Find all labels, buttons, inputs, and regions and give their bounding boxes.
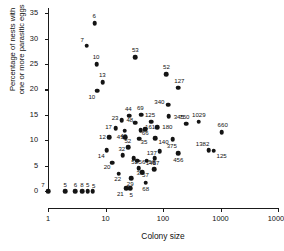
- data-point: [152, 167, 157, 172]
- data-point: [158, 149, 163, 154]
- data-point-label: 20: [104, 163, 111, 169]
- data-point-label: 375: [167, 142, 177, 148]
- data-point: [184, 122, 189, 127]
- data-point-label: 8: [80, 181, 83, 187]
- y-axis-title: Percentage of nests with one or more par…: [8, 0, 27, 134]
- data-point: [155, 125, 160, 130]
- data-point-label: 12: [99, 133, 106, 139]
- x-tick: [48, 208, 49, 212]
- data-point: [73, 189, 78, 194]
- y-axis-title-line-1: Percentage of nests with: [8, 0, 17, 134]
- data-point-label: 21: [117, 191, 124, 197]
- data-point-label: 52: [124, 138, 131, 144]
- data-point-label: 35: [141, 139, 148, 145]
- data-point-label: 17: [105, 124, 112, 130]
- data-point-label: 22: [114, 176, 121, 182]
- data-point-label: 125: [217, 153, 227, 159]
- x-tick-label: 1: [28, 214, 68, 223]
- data-point-label: 750: [179, 114, 189, 120]
- data-point-label: 5: [92, 182, 95, 188]
- data-point-label: 456: [173, 157, 183, 163]
- data-point-label: 14: [98, 153, 105, 159]
- x-tick-label: 10000: [258, 214, 284, 223]
- data-point-label: 32: [118, 146, 125, 152]
- data-point: [107, 135, 112, 140]
- data-point-label: 161: [145, 124, 155, 130]
- data-point: [126, 145, 131, 150]
- data-point-label: 52: [163, 64, 170, 70]
- x-tick: [221, 208, 222, 212]
- scatter-chart: 05101520253035 110100100010000 Percentag…: [0, 0, 284, 251]
- data-point-label: 340: [154, 98, 164, 104]
- data-point: [197, 120, 202, 125]
- data-point-label: 41: [117, 133, 124, 139]
- data-point: [119, 118, 124, 123]
- data-point: [206, 148, 211, 153]
- data-point-label: 10: [93, 54, 100, 60]
- x-tick: [106, 208, 107, 212]
- data-point: [63, 189, 68, 194]
- data-point: [104, 148, 109, 153]
- data-point-label: 44: [125, 106, 132, 112]
- data-point-label: 1029: [192, 112, 206, 118]
- x-tick-label: 100: [143, 214, 183, 223]
- data-point: [128, 186, 133, 191]
- data-point: [85, 189, 90, 194]
- data-point: [90, 189, 95, 194]
- data-point: [121, 153, 126, 158]
- data-point: [166, 102, 171, 107]
- x-axis-title: Colony size: [48, 231, 278, 241]
- data-point: [94, 62, 99, 67]
- data-point-label: 13: [99, 72, 106, 78]
- x-tick: [163, 208, 164, 212]
- data-point-label: 7: [80, 36, 83, 42]
- y-tick-label: 10: [18, 136, 38, 144]
- data-point-label: 53: [132, 47, 139, 53]
- data-point: [80, 189, 85, 194]
- y-tick-label: 5: [18, 162, 38, 170]
- data-point-label: 57: [142, 172, 149, 178]
- data-point: [166, 114, 171, 119]
- data-point-label: 7: [41, 181, 44, 187]
- data-point: [92, 21, 97, 26]
- data-point-label: 127: [174, 78, 184, 84]
- data-point-label: 660: [218, 122, 228, 128]
- data-point-label: 5: [86, 181, 89, 187]
- data-point-label: 57: [153, 160, 160, 166]
- y-tick-label: 0: [18, 187, 38, 195]
- data-point-label: 69: [137, 105, 144, 111]
- data-point: [139, 112, 144, 117]
- data-point: [211, 149, 216, 154]
- data-point-label: 48: [126, 117, 133, 123]
- x-tick-label: 10: [86, 214, 126, 223]
- data-point-label: 6: [93, 13, 96, 19]
- data-point: [84, 43, 89, 48]
- data-point-label: 125: [145, 112, 155, 118]
- data-point-label: 10: [88, 94, 95, 100]
- data-point: [113, 126, 118, 131]
- y-axis-title-line-2: one or more parasitic eggs: [17, 0, 26, 134]
- data-point-label: 6: [74, 181, 77, 187]
- data-point: [133, 121, 138, 126]
- data-point: [101, 80, 106, 85]
- x-tick-label: 1000: [201, 214, 241, 223]
- data-point-label: 180: [162, 124, 172, 130]
- data-point: [164, 72, 169, 77]
- data-point: [46, 189, 51, 194]
- data-point: [95, 89, 100, 94]
- data-point-label: 5: [130, 192, 133, 198]
- data-point-label: 68: [142, 186, 149, 192]
- data-point: [153, 136, 158, 141]
- x-tick: [278, 208, 279, 212]
- data-point: [219, 130, 224, 135]
- data-point-label: 23: [112, 115, 119, 121]
- data-point: [133, 55, 138, 60]
- data-point: [176, 86, 181, 91]
- data-point-label: 1382: [196, 141, 210, 147]
- data-point-label: 5: [64, 181, 67, 187]
